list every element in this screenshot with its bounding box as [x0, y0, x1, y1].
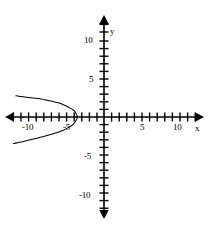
coordinate-plane-svg	[0, 0, 209, 231]
x-tick-label-5: 5	[140, 123, 144, 132]
y-tick-label-neg10: -10	[79, 191, 90, 200]
x-tick-label-neg5: -5	[63, 123, 70, 132]
x-axis-left-arrowhead	[5, 112, 14, 122]
x-tick-label-10: 10	[173, 123, 182, 132]
x-axis-right-arrowhead	[195, 112, 204, 122]
y-axis-bottom-arrowhead	[99, 210, 108, 219]
x-tick-label-neg10: -10	[22, 123, 33, 132]
y-tick-label-10: 10	[84, 36, 93, 45]
y-axis-name-label: y	[110, 27, 115, 36]
graph-figure: -10 -5 5 10 10 5 -5 -10 x y	[0, 0, 209, 231]
y-tick-label-5: 5	[89, 75, 93, 84]
x-axis-name-label: x	[195, 124, 200, 133]
parabola-curve	[14, 96, 78, 144]
y-axis-top-arrowhead	[99, 15, 108, 24]
y-tick-label-neg5: -5	[84, 152, 91, 161]
